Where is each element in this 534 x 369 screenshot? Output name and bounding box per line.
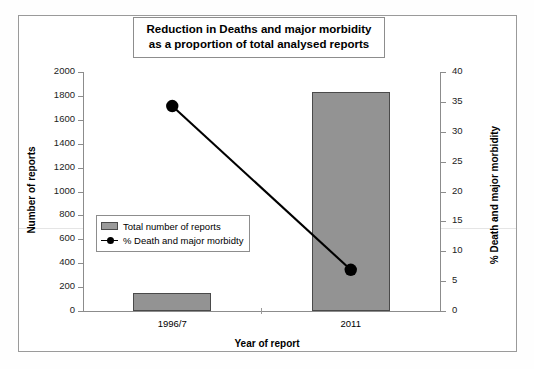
line-marker-1996/7 xyxy=(166,100,178,112)
legend-label-death-morbidity: % Death and major morbidty xyxy=(123,235,243,246)
chart-figure: Reduction in Deaths and major morbidity … xyxy=(0,0,534,369)
x-axis-center-tick xyxy=(261,308,262,314)
legend-line-dot-icon xyxy=(101,236,118,244)
x-axis-label-2011: 2011 xyxy=(291,318,411,329)
line-marker-2011 xyxy=(345,264,357,276)
line-series xyxy=(0,0,534,369)
legend-item-death-morbidity: % Death and major morbidty xyxy=(101,233,243,247)
x-axis-label-1996/7: 1996/7 xyxy=(112,318,232,329)
x-axis-title: Year of report xyxy=(0,338,534,349)
chart-legend: Total number of reports % Death and majo… xyxy=(96,215,250,252)
legend-bar-swatch-icon xyxy=(101,222,118,230)
legend-item-total-reports: Total number of reports xyxy=(101,219,243,233)
legend-label-total-reports: Total number of reports xyxy=(123,221,221,232)
